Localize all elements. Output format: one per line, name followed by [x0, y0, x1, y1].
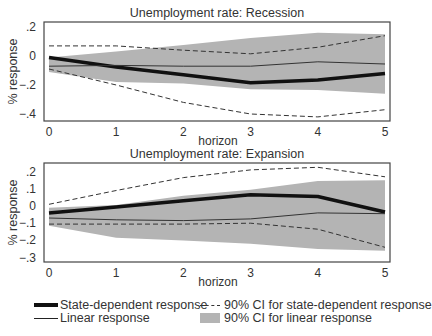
x-tick-label: 0: [46, 125, 53, 139]
x-tick-label: 4: [314, 266, 321, 280]
thick-line-icon: [34, 303, 58, 307]
y-tick-label: −.2: [19, 78, 36, 92]
panel-recession: Unemployment rate: Recession.20−.2−.4012…: [6, 6, 390, 148]
y-tick-label: −.1: [19, 216, 36, 230]
x-axis-label: horizon: [198, 275, 237, 289]
x-tick-label: 4: [314, 125, 321, 139]
legend-item-linear: Linear response: [34, 311, 150, 325]
x-axis-label: horizon: [198, 134, 237, 148]
y-axis-label: % response: [6, 179, 20, 245]
ci-band-linear: [49, 180, 385, 251]
thin-line-icon: [34, 318, 58, 319]
y-tick-label: −.4: [19, 107, 36, 121]
legend-label: 90% CI for linear response: [224, 311, 372, 325]
legend-item-state-dependent: State-dependent response: [34, 298, 207, 312]
y-tick-label: −.2: [19, 233, 36, 247]
dashed-line-icon: [200, 305, 220, 306]
gray-band-icon: [200, 313, 220, 323]
legend-item-ci-state-dependent: 90% CI for state-dependent response: [200, 298, 432, 312]
legend-item-ci-linear: 90% CI for linear response: [200, 311, 372, 325]
legend: State-dependent response 90% CI for stat…: [0, 296, 402, 326]
x-tick-label: 2: [180, 266, 187, 280]
y-tick-label: 0: [29, 199, 36, 213]
x-tick-label: 3: [247, 266, 254, 280]
y-axis-label: % response: [6, 38, 20, 104]
panel-expansion: Unemployment rate: Expansion.2.10−.1−.2−…: [6, 147, 390, 289]
y-tick-label: .2: [26, 165, 36, 179]
legend-label: State-dependent response: [60, 298, 207, 312]
y-tick-label: −.3: [19, 251, 36, 265]
chart-title: Unemployment rate: Recession: [130, 6, 304, 20]
x-tick-label: 1: [113, 266, 120, 280]
x-tick-label: 1: [113, 125, 120, 139]
x-tick-label: 5: [382, 266, 389, 280]
y-tick-label: 0: [29, 49, 36, 63]
legend-label: 90% CI for state-dependent response: [224, 298, 432, 312]
legend-label: Linear response: [60, 311, 150, 325]
y-tick-label: .1: [26, 182, 36, 196]
chart-title: Unemployment rate: Expansion: [130, 147, 304, 161]
x-tick-label: 0: [46, 266, 53, 280]
chart-canvas: Unemployment rate: Recession.20−.2−.4012…: [0, 0, 402, 296]
y-tick-label: .2: [26, 20, 36, 34]
x-tick-label: 5: [382, 125, 389, 139]
x-tick-label: 3: [247, 125, 254, 139]
x-tick-label: 2: [180, 125, 187, 139]
